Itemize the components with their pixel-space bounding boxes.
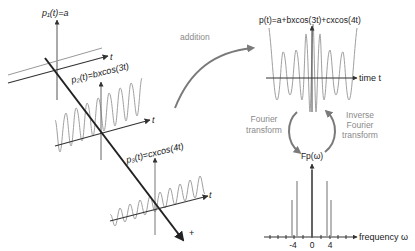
tick-label-0: 0 (310, 240, 315, 250)
p1-label: p₁(t)=a (41, 8, 69, 18)
p1-t-label: t (110, 52, 113, 62)
p2-t-label: t (152, 115, 155, 125)
p3-label: p₃(t)=cxcos(4t) (124, 141, 184, 165)
spectrum-plot (264, 164, 357, 239)
spectrum-y-label: Fp(ω) (301, 151, 323, 161)
inverse-label-1: Inverse (346, 110, 374, 120)
frequency-axis-label: frequency ω (359, 232, 408, 242)
combined-wave (269, 24, 357, 112)
combined-title: p(t)=a+bxcos(3t)+cxcos(4t) (259, 15, 361, 25)
tick-label-minus-4: -4 (289, 240, 297, 250)
panel-p1 (8, 20, 108, 100)
spectrum-peaks (292, 170, 331, 237)
time-axis-label: time t (359, 73, 382, 83)
inverse-label-2: Fourier (347, 120, 374, 130)
combined-signal-plot (266, 24, 357, 112)
fourier-label-1: Fourier (251, 114, 278, 124)
tick-label-4: 4 (328, 240, 333, 250)
fourier-diagram: p₁(t)=a t p₂(t)=bxcos(3t) t p₃(t)=cxcos(… (0, 0, 415, 251)
inverse-label-3: transform (342, 130, 378, 140)
panel-p3 (110, 158, 208, 235)
p3-t-label: t (209, 190, 212, 200)
fourier-label-2: transform (246, 125, 282, 135)
fourier-transform-arrow (289, 112, 299, 152)
addition-arrow (175, 48, 252, 108)
inverse-fourier-transform-arrow (325, 112, 335, 152)
plus-label: + (189, 228, 194, 238)
addition-label: addition (180, 32, 210, 42)
